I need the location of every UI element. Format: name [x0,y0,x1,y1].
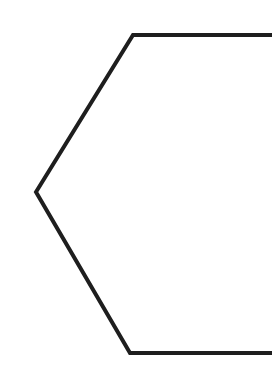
diagram-canvas [0,0,272,390]
hexagon-shape [36,35,272,353]
